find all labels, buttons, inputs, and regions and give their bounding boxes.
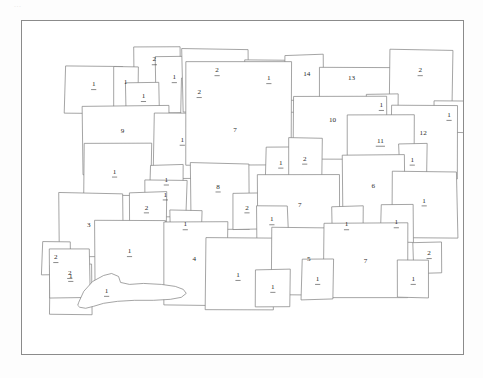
parcel-number-label: 2 xyxy=(303,155,307,163)
parcel-number-label: 7 xyxy=(233,126,237,134)
parcel-number-label: 2 xyxy=(145,204,149,212)
parcel-number-label: 9 xyxy=(121,127,125,135)
parcel-number-label: 1 xyxy=(113,168,117,176)
parcel-number-label: 1 xyxy=(124,78,128,86)
parcel-number-label: 2 xyxy=(153,55,157,63)
parcel-number-label: 10 xyxy=(329,116,337,124)
parcel-boundary[interactable] xyxy=(84,143,152,195)
parcel-number-label: 5 xyxy=(307,255,311,263)
parcel-number-label: 1 xyxy=(105,287,109,295)
parcel-number-label: 1 xyxy=(316,275,320,283)
parcel-number-label: 1 xyxy=(165,176,169,184)
parcel-number-label: 13 xyxy=(348,74,356,82)
parcel-number-label: 8 xyxy=(216,183,220,191)
parcel-number-label: 6 xyxy=(372,182,376,190)
parcel-number-label: 11 xyxy=(377,137,384,145)
parcel-number-label: 1 xyxy=(410,156,414,164)
parcel-number-label: 7 xyxy=(298,201,302,209)
parcel-number-label: 2 xyxy=(418,66,422,74)
parcel-number-label: 1 xyxy=(142,92,146,100)
parcel-number-label: 1 xyxy=(447,111,451,119)
parcel-number-label: 1 xyxy=(380,101,384,109)
page-corner-mark: ... xyxy=(14,1,21,8)
parcel-number-label: 14 xyxy=(303,70,311,78)
parcel-number-label: 1 xyxy=(411,275,415,283)
parcel-number-label: 2 xyxy=(215,66,219,74)
parcel-number-label: 1 xyxy=(236,271,240,279)
parcel-number-label: 3 xyxy=(87,221,91,229)
parcel-number-label: 1 xyxy=(270,215,274,223)
parcel-layer xyxy=(41,47,463,315)
parcel-number-label: 1 xyxy=(92,80,96,88)
parcel-number-label: 2 xyxy=(245,204,249,212)
parcel-number-label: 1 xyxy=(128,247,132,255)
parcel-number-label: 1 xyxy=(271,283,275,291)
plan-border-frame: 1211122114132917110112111112161812271311… xyxy=(21,20,464,355)
parcel-number-label: 1 xyxy=(422,197,426,205)
parcel-plan-canvas: 1211122114132917110112111112161812271311… xyxy=(22,21,463,354)
parcel-number-label: 2 xyxy=(68,269,72,277)
parcel-number-label: 1 xyxy=(345,220,349,228)
parcel-number-label: 1 xyxy=(279,159,283,167)
parcel-number-label: 1 xyxy=(164,191,168,199)
scanned-page: ... 121112211413291711011211111216181227… xyxy=(0,0,483,378)
parcel-number-label: 1 xyxy=(183,220,187,228)
parcel-number-label: 2 xyxy=(427,249,431,257)
parcel-number-label: 12 xyxy=(420,129,428,137)
parcel-number-label: 4 xyxy=(192,255,196,263)
parcel-number-label: 1 xyxy=(180,136,184,144)
parcel-number-label: 7 xyxy=(364,257,368,265)
parcel-number-label: 1 xyxy=(267,74,271,82)
parcel-number-label: 1 xyxy=(395,218,399,226)
parcel-number-label: 1 xyxy=(173,73,177,81)
parcel-number-label: 2 xyxy=(197,88,201,96)
parcel-number-label: 2 xyxy=(54,253,58,261)
